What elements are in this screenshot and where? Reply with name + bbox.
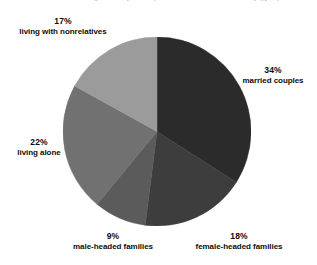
pie-slices — [63, 37, 251, 226]
slice-percent: 17% — [8, 16, 118, 26]
slice-name: living alone — [3, 148, 75, 158]
slice-name: female-headed families — [178, 242, 300, 252]
figure-caption-text: Figure 1. Proportion of households in th… — [88, 0, 311, 2]
slice-label-male-headed-families: 9% male-headed families — [57, 231, 169, 252]
slice-percent: 34% — [231, 65, 315, 75]
figure-caption: Figure 1. Proportion of households in th… — [0, 0, 317, 4]
pie-graphic — [63, 37, 251, 226]
slice-name: married couples — [231, 76, 315, 86]
slice-label-married-couples: 34% married couples — [231, 65, 315, 86]
pie-chart-figure: Figure 1. Proportion of households in th… — [0, 0, 317, 265]
slice-percent: 9% — [57, 231, 169, 241]
slice-label-living-alone: 22% living alone — [3, 137, 75, 158]
pie-svg — [63, 37, 251, 226]
slice-label-female-headed-families: 18% female-headed families — [178, 231, 300, 252]
slice-name: living with nonrelatives — [8, 27, 118, 37]
slice-percent: 18% — [178, 231, 300, 241]
slice-name: male-headed families — [57, 242, 169, 252]
slice-percent: 22% — [3, 137, 75, 147]
slice-label-living-with-nonrelatives: 17% living with nonrelatives — [8, 16, 118, 37]
